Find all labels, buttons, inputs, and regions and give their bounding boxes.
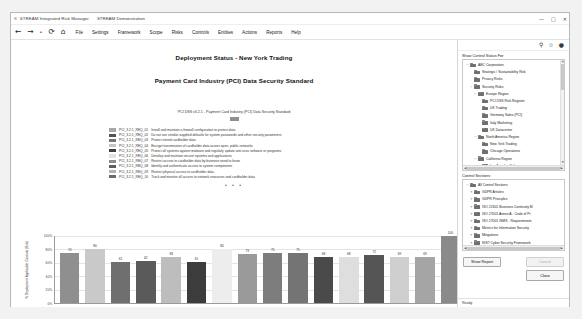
scope-tree-item-node[interactable]: New York Trading — [465, 141, 564, 148]
scope-tree-item-node[interactable]: −California Region — [465, 155, 564, 162]
scroll-left-icon[interactable]: ◀ — [464, 166, 466, 170]
bar[interactable] — [187, 262, 207, 303]
sections-tree-item-node[interactable]: +GDPR Articles — [465, 189, 564, 196]
sections-tree-item-node[interactable]: +Metrics for Information Security — [465, 225, 564, 232]
bar-column[interactable]: 75 — [261, 236, 285, 303]
menu-item-file[interactable]: File — [76, 30, 83, 35]
close-button[interactable]: Close — [526, 270, 564, 280]
bar-column[interactable]: 68 — [159, 236, 183, 303]
bar[interactable] — [111, 262, 131, 303]
menu-item-actions[interactable]: Actions — [242, 30, 257, 35]
scroll-left-icon[interactable]: ◀ — [464, 246, 466, 250]
folder-icon — [474, 233, 480, 237]
bar-column[interactable]: 74 — [58, 236, 82, 303]
bar[interactable] — [85, 249, 105, 303]
favorite-star-icon[interactable]: ☆ — [548, 42, 553, 48]
sections-tree-hscrollbar[interactable]: ◀ ▶ — [463, 245, 564, 250]
hscrollbar-thumb[interactable] — [467, 247, 559, 250]
maximize-icon[interactable]: □ — [551, 17, 556, 22]
bar-column[interactable]: 68 — [337, 236, 361, 303]
scope-tree-item-node[interactable]: −Security Risks — [465, 83, 564, 90]
scope-tree-item-node[interactable]: −North America Region — [465, 133, 564, 140]
scope-tree-item-label: UK Datacentre — [490, 128, 512, 132]
sections-tree-item-node[interactable]: +Mitigations — [465, 232, 564, 239]
menu-item-framework[interactable]: Framework — [118, 30, 141, 35]
bar[interactable] — [288, 253, 308, 303]
refresh-icon[interactable]: ⟳ — [49, 28, 55, 36]
sections-tree-box[interactable]: −All Control Sections+GDPR Articles+GDPR… — [462, 179, 565, 251]
menu-item-scope[interactable]: Scope — [150, 30, 163, 35]
scrollbar-thumb[interactable] — [561, 64, 565, 90]
bar-column[interactable]: 80 — [210, 236, 234, 303]
minimize-icon[interactable]: — — [539, 17, 544, 22]
bar-column[interactable]: 68 — [312, 236, 336, 303]
scroll-right-icon[interactable]: ▶ — [561, 166, 563, 170]
scope-tree-hscrollbar[interactable]: ◀ ▶ — [463, 165, 564, 170]
bar-column[interactable]: 72 — [362, 236, 386, 303]
bar-column[interactable]: 62 — [134, 236, 158, 303]
scope-tree-item-node[interactable]: PCI DSS Risk Register — [465, 97, 564, 104]
legend-item-code: PCI_3.2.1_REQ_05 — [119, 149, 148, 153]
scope-tree-vscrollbar[interactable]: ▲ ▼ — [560, 60, 565, 165]
sections-tree-item-node[interactable]: −All Control Sections — [465, 182, 564, 189]
stop-icon[interactable]: • — [40, 30, 43, 35]
scope-tree-item-node[interactable]: Italy Marketing — [465, 119, 564, 126]
close-icon[interactable]: ✕ — [563, 17, 567, 22]
show-report-button[interactable]: Show Report — [463, 257, 501, 267]
bar[interactable] — [60, 253, 80, 303]
scope-tree-item-node[interactable]: Chicago Operations — [465, 148, 564, 155]
bar-column[interactable]: 61 — [185, 236, 209, 303]
sections-tree-item-node[interactable]: +ISO 27001 Annex A - Code of Pr — [465, 210, 564, 217]
scroll-right-icon[interactable]: ▶ — [561, 246, 563, 250]
user-avatar-icon[interactable]: ● — [559, 42, 564, 48]
scope-tree-box[interactable]: −ABC CorporationStrategic / Sustainabili… — [462, 59, 565, 171]
menu-item-settings[interactable]: Settings — [92, 30, 109, 35]
sections-tree-item-label: ISO 22301 Business Continuity M — [482, 205, 533, 209]
scope-tree-item-node[interactable]: −ABC Corporation — [465, 62, 564, 69]
legend-item-text: Protect stored cardholder data — [151, 138, 195, 142]
search-icon[interactable]: ⚲ — [539, 42, 543, 48]
hscrollbar-thumb[interactable] — [467, 167, 559, 170]
scope-tree-item-node[interactable]: Strategic / Sustainability Risk — [465, 69, 564, 76]
bar-column[interactable]: 61 — [109, 236, 133, 303]
folder-icon — [474, 77, 480, 81]
menu-item-risks[interactable]: Risks — [172, 30, 183, 35]
menu-item-entities[interactable]: Entities — [218, 30, 233, 35]
bar[interactable] — [364, 255, 384, 303]
sections-tree-item-node[interactable]: +ISO 27001 ISMS - Requirements — [465, 217, 564, 224]
bar[interactable] — [390, 257, 410, 303]
home-icon[interactable]: ⌂ — [61, 28, 66, 36]
menu-item-controls[interactable]: Controls — [192, 30, 209, 35]
forward-icon[interactable]: → — [27, 28, 33, 36]
back-icon[interactable]: ← — [15, 28, 21, 36]
bar[interactable] — [238, 254, 258, 303]
sections-tree-item-node[interactable]: +GDPR Principles — [465, 196, 564, 203]
bar[interactable] — [263, 253, 283, 303]
scope-tree-item-label: Germany Sales (PCI) — [490, 113, 522, 117]
bar[interactable] — [441, 236, 457, 303]
scope-tree-item-node[interactable]: Germany Sales (PCI) — [465, 112, 564, 119]
scope-tree-item-node[interactable]: UK Datacentre — [465, 126, 564, 133]
bar-column[interactable]: 80 — [83, 236, 107, 303]
sections-tree-item-label: NIST Cyber Security Framework — [482, 241, 531, 245]
bar[interactable] — [161, 257, 181, 303]
bar[interactable] — [136, 261, 156, 303]
scope-tree-item-node[interactable]: Privacy Risks — [465, 76, 564, 83]
sections-tree-item-node[interactable]: +ISO 22301 Business Continuity M — [465, 203, 564, 210]
scope-tree-item-node[interactable]: UK Trading — [465, 105, 564, 112]
menu-item-help[interactable]: Help — [291, 30, 300, 35]
bar-column[interactable]: 69 — [413, 236, 437, 303]
bar[interactable] — [314, 257, 334, 303]
bar-column[interactable]: 73 — [235, 236, 259, 303]
bar[interactable] — [212, 249, 232, 303]
scope-tree-item-node[interactable]: −Europe Region — [465, 90, 564, 97]
menu-item-reports[interactable]: Reports — [266, 30, 282, 35]
sections-tree: −All Control Sections+GDPR Articles+GDPR… — [463, 180, 564, 251]
bar-column[interactable]: 75 — [286, 236, 310, 303]
bar[interactable] — [339, 257, 359, 303]
bar-column[interactable]: 100 — [438, 236, 457, 303]
screen-root: S STREAM Integrated Risk Manager STREAM … — [0, 0, 582, 319]
bar-column[interactable]: 69 — [388, 236, 412, 303]
legend-item-code: PCI_3.2.1_REQ_09 — [119, 170, 148, 174]
bar[interactable] — [415, 257, 435, 303]
